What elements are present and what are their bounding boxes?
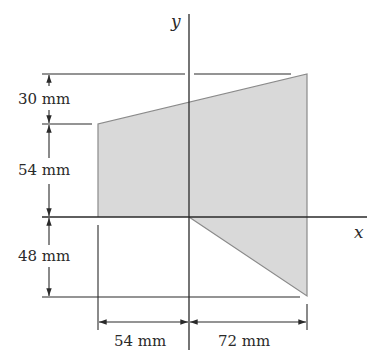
dimension-label-30mm: 30 mm — [18, 90, 70, 108]
shaded-area — [98, 74, 307, 296]
dimension-label-48mm: 48 mm — [18, 247, 70, 265]
x-axis-label: x — [354, 222, 364, 242]
dimension-label-54mm-horizontal: 54 mm — [114, 332, 166, 350]
dimension-label-72mm: 72 mm — [218, 332, 270, 350]
y-axis-label: y — [170, 11, 181, 31]
dimension-label-54mm-vertical: 54 mm — [18, 161, 70, 179]
section-diagram: y x 30 mm 54 mm 48 mm 54 mm 72 mm — [0, 0, 379, 358]
